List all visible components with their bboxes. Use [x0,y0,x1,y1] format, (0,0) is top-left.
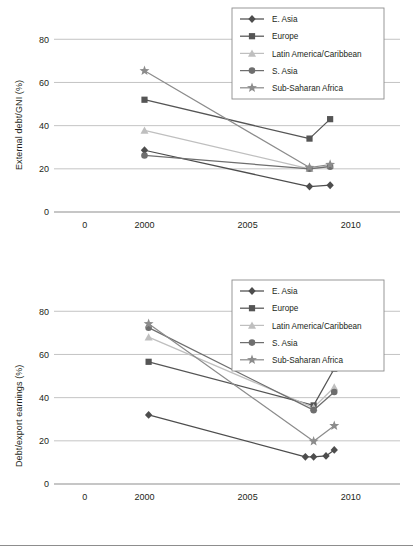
legend-label-4: Sub-Saharan Africa [272,84,343,93]
x-tick-label-0: 0 [82,220,87,230]
x-tick-labels-group: 0200020052010 [82,220,361,230]
y-tick-label-60: 60 [39,78,49,88]
legend-label-3: S. Asia [272,67,298,76]
marker-diamond [322,452,329,460]
marker-diamond [310,453,317,461]
y-tick-label-80: 80 [39,307,49,317]
marker-square [146,359,152,365]
x-tick-labels-group: 0200020052010 [82,492,361,502]
y-tick-label-60: 60 [39,350,49,360]
legend-label-1: Europe [272,304,299,313]
marker-square [249,305,255,311]
marker-diamond [326,181,333,189]
x-tick-label-2: 2005 [238,492,258,502]
marker-circle [331,389,338,396]
y-tick-label-0: 0 [44,207,49,217]
marker-circle [141,152,148,159]
marker-diamond [306,183,313,191]
marker-star [140,66,150,75]
marker-square [249,33,255,39]
footer-divider [0,545,413,546]
marker-circle [249,339,256,346]
legend: E. AsiaEuropeLatin America/CaribbeanS. A… [232,8,384,99]
y-tick-labels-group: 020406080 [39,307,49,490]
marker-square [141,97,147,103]
y-tick-label-40: 40 [39,121,49,131]
legend-label-2: Latin America/Caribbean [272,50,362,59]
marker-circle [249,67,256,74]
y-tick-label-20: 20 [39,436,49,446]
y-axis-label-bottom: Debt/export earnings (%) [14,365,24,467]
marker-square [327,116,333,122]
y-tick-labels-group: 020406080 [39,35,49,218]
series-line-europe [145,100,331,139]
legend-label-4: Sub-Saharan Africa [272,356,343,365]
chart-svg-debt-export-earnings: 0204060800200020052010E. AsiaEuropeLatin… [0,272,413,547]
marker-square [306,135,312,141]
legend-label-1: Europe [272,32,299,41]
marker-diamond [145,411,152,419]
legend-label-0: E. Asia [272,15,298,24]
y-tick-label-40: 40 [39,393,49,403]
x-tick-label-1: 2000 [134,492,154,502]
marker-diamond [302,453,309,461]
legend: E. AsiaEuropeLatin America/CaribbeanS. A… [232,280,384,371]
y-tick-label-0: 0 [44,479,49,489]
x-tick-label-3: 2010 [341,220,361,230]
x-tick-label-2: 2005 [238,220,258,230]
x-tick-label-1: 2000 [134,220,154,230]
marker-circle [310,407,317,414]
chart-svg-external-debt-gni: 0204060800200020052010E. AsiaEuropeLatin… [0,0,413,275]
chart-panel-external-debt-gni: External debt/GNI (%) 020406080020002005… [0,0,413,275]
marker-diamond [331,446,338,454]
x-tick-label-0: 0 [82,492,87,502]
y-tick-label-20: 20 [39,164,49,174]
legend-label-0: E. Asia [272,287,298,296]
y-tick-label-80: 80 [39,35,49,45]
marker-triangle [141,126,149,133]
marker-triangle [145,333,153,340]
y-axis-label-top: External debt/GNI (%) [14,80,24,170]
x-tick-label-3: 2010 [341,492,361,502]
figure-two-line-charts: External debt/GNI (%) 020406080020002005… [0,0,413,557]
chart-panel-debt-export-earnings: Debt/export earnings (%) 020406080020002… [0,272,413,547]
legend-label-3: S. Asia [272,339,298,348]
marker-star [309,436,319,445]
legend-label-2: Latin America/Caribbean [272,322,362,331]
